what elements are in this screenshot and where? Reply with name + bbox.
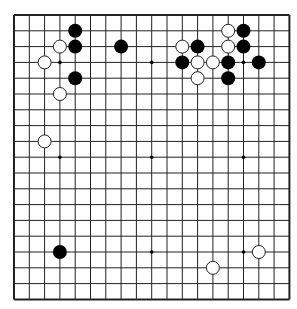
white-stone <box>222 40 235 53</box>
white-stone <box>53 40 66 53</box>
star-point <box>242 61 246 65</box>
black-stone <box>221 71 235 85</box>
white-stone <box>38 135 51 148</box>
black-stone <box>191 40 205 54</box>
white-stone <box>206 56 219 69</box>
white-stone <box>252 246 265 259</box>
white-stone <box>38 56 51 69</box>
black-stone <box>68 24 82 38</box>
star-point <box>150 155 154 159</box>
black-stone <box>114 40 128 54</box>
white-stone <box>191 56 204 69</box>
black-stone <box>175 55 189 69</box>
star-point <box>150 61 154 65</box>
black-stone <box>252 55 266 69</box>
black-stone <box>237 40 251 54</box>
white-stone <box>176 40 189 53</box>
star-point <box>242 155 246 159</box>
white-stone <box>222 24 235 37</box>
black-stone <box>237 24 251 38</box>
black-stone <box>68 71 82 85</box>
star-point <box>150 250 154 254</box>
black-stone <box>68 40 82 54</box>
go-board[interactable] <box>0 0 297 309</box>
black-stone <box>53 245 67 259</box>
white-stone <box>191 72 204 85</box>
star-point <box>242 250 246 254</box>
star-point <box>58 61 62 65</box>
white-stone <box>53 88 66 101</box>
white-stone <box>206 261 219 274</box>
black-stone <box>221 55 235 69</box>
star-point <box>58 155 62 159</box>
